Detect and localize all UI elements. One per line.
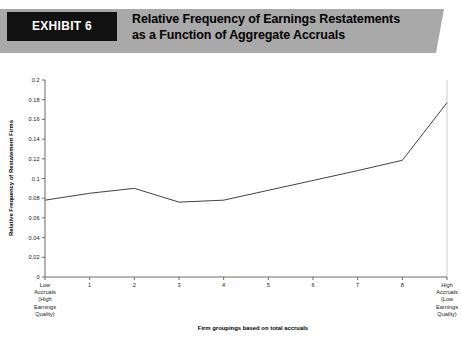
x-tick-label: LowAccruals(HighEarningsQuality) bbox=[34, 282, 56, 317]
y-tick-label: 0.16 bbox=[29, 116, 40, 122]
exhibit-number-tab: EXHIBIT 6 bbox=[7, 12, 117, 41]
x-axis-title: Firm groupings based on total accruals bbox=[198, 325, 309, 331]
x-tick-label: 5 bbox=[267, 282, 270, 288]
y-axis-ticks: 00.020.040.060.080.10.120.140.160.180.2 bbox=[29, 77, 45, 280]
x-tick-label: 4 bbox=[222, 282, 225, 288]
x-axis-ticks: LowAccruals(HighEarningsQuality)12345678… bbox=[34, 277, 458, 317]
y-tick-label: 0.2 bbox=[32, 77, 40, 83]
exhibit-title-line-2: as a Function of Aggregate Accruals bbox=[132, 28, 432, 44]
exhibit-title: Relative Frequency of Earnings Restateme… bbox=[132, 12, 432, 43]
x-tick-label: 3 bbox=[177, 282, 180, 288]
y-tick-label: 0.14 bbox=[29, 136, 40, 142]
y-axis-title: Relative Frequency of Restatement Firms bbox=[8, 119, 14, 236]
y-tick-label: 0.1 bbox=[32, 176, 40, 182]
chart-figure: 00.020.040.060.080.10.120.140.160.180.2 … bbox=[0, 57, 461, 357]
exhibit-number-label: EXHIBIT 6 bbox=[7, 12, 117, 41]
y-tick-label: 0.04 bbox=[29, 235, 40, 241]
y-tick-label: 0.12 bbox=[29, 156, 40, 162]
x-tick-label: 6 bbox=[311, 282, 314, 288]
data-series-line bbox=[45, 103, 447, 202]
line-chart: 00.020.040.060.080.10.120.140.160.180.2 … bbox=[0, 57, 461, 357]
x-tick-label: 2 bbox=[133, 282, 136, 288]
exhibit-header: EXHIBIT 6 Relative Frequency of Earnings… bbox=[0, 9, 461, 53]
y-tick-label: 0.08 bbox=[29, 195, 40, 201]
x-tick-label: 7 bbox=[356, 282, 359, 288]
x-tick-label: HighAccruals(LowEarningsQuality) bbox=[436, 282, 458, 317]
x-tick-label: 1 bbox=[88, 282, 91, 288]
x-tick-label: 8 bbox=[401, 282, 404, 288]
y-tick-label: 0 bbox=[36, 274, 39, 280]
y-tick-label: 0.06 bbox=[29, 215, 40, 221]
y-tick-label: 0.02 bbox=[29, 254, 40, 260]
y-tick-label: 0.18 bbox=[29, 97, 40, 103]
exhibit-title-line-1: Relative Frequency of Earnings Restateme… bbox=[132, 12, 400, 26]
